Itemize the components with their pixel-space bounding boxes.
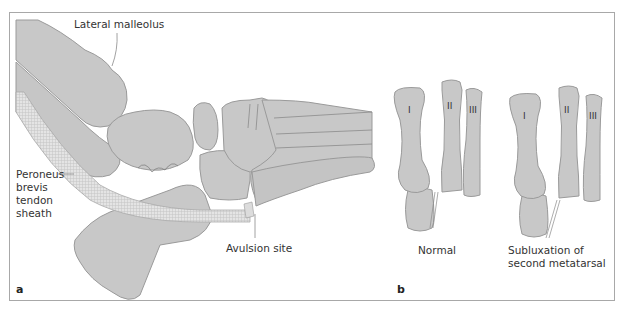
caption-subluxation-line1: Subluxation of (508, 244, 584, 257)
panel-letter-a: a (16, 283, 23, 296)
label-avulsion-site: Avulsion site (226, 242, 292, 255)
panel-b-normal (394, 80, 482, 231)
normal-metatarsal-I (394, 88, 429, 193)
sublux-label-III: III (589, 110, 597, 123)
label-peroneus-line3: tendon (16, 194, 53, 207)
caption-subluxation-line2: second metatarsal (508, 257, 606, 270)
sublux-metatarsal-II (558, 86, 579, 198)
normal-metatarsal-II (441, 80, 462, 192)
normal-label-II: II (447, 100, 452, 113)
label-peroneus-line2: brevis (16, 181, 48, 194)
avulsion-fragment (244, 202, 254, 218)
normal-label-I: I (408, 104, 411, 117)
label-lateral-malleolus: Lateral malleolus (74, 18, 164, 31)
sublux-metatarsal-I (510, 94, 546, 199)
navicular-bone (193, 103, 218, 150)
caption-normal: Normal (418, 244, 456, 257)
sublux-medial-cuneiform (520, 194, 549, 237)
label-peroneus-line4: sheath (16, 207, 52, 220)
sublux-label-II: II (564, 104, 569, 117)
normal-medial-cuneiform (406, 188, 435, 231)
label-peroneus-line1: Peroneus (16, 168, 64, 181)
sublux-label-I: I (523, 110, 526, 123)
panel-a-foot (16, 20, 375, 299)
panel-letter-b: b (397, 283, 405, 296)
normal-label-III: III (469, 104, 477, 117)
